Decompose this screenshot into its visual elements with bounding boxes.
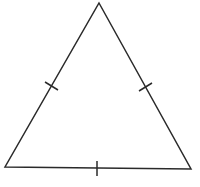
tick-mark-left-side	[45, 82, 58, 90]
triangle-shape	[5, 3, 191, 169]
equilateral-triangle-diagram	[0, 0, 200, 187]
figure-canvas: Equilateral triangle with congruence tic…	[0, 0, 200, 187]
tick-mark-right-side	[139, 83, 152, 91]
